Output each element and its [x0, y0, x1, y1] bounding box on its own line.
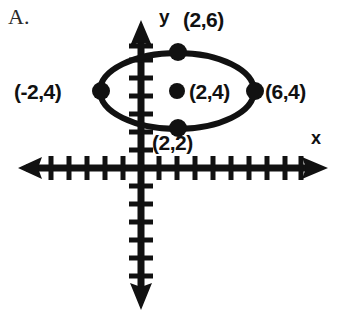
coordinate-plane-drawing — [0, 0, 342, 312]
point-label-top-vertex: (2,6) — [183, 9, 224, 30]
y-axis-label: y — [159, 7, 169, 26]
point-left-vertex-neg2-4 — [92, 82, 110, 100]
y-axis-down-arrow-icon — [130, 283, 152, 310]
point-right-vertex-6-4 — [246, 82, 264, 100]
point-label-left-vertex: (-2,4) — [14, 81, 61, 102]
point-label-center: (2,4) — [189, 81, 230, 102]
point-label-bottom-vertex: (2,2) — [152, 132, 193, 153]
point-center-2-4 — [169, 83, 185, 99]
point-top-vertex-2-6 — [169, 43, 187, 61]
x-axis-label: x — [311, 129, 321, 147]
point-label-right-vertex: (6,4) — [265, 81, 306, 102]
graph-figure: A. — [0, 0, 342, 312]
